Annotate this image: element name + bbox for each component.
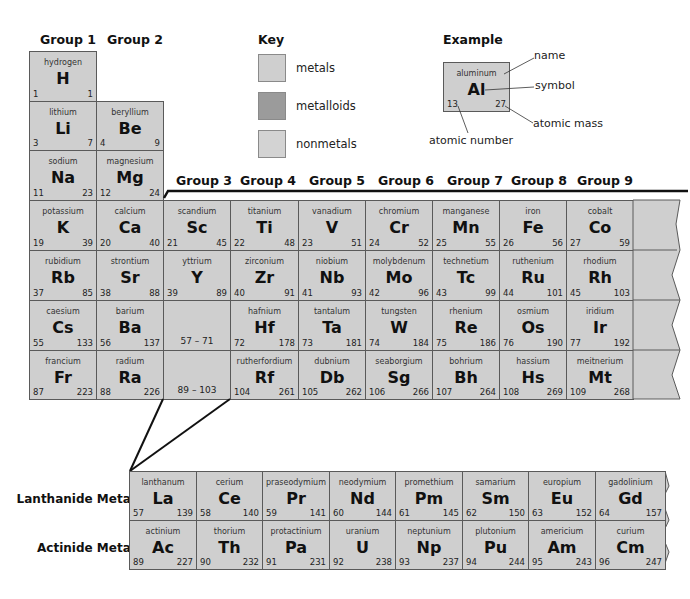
element-symbol: Pa: [263, 538, 329, 557]
atomic-mass: 139: [177, 508, 193, 518]
element-symbol: Eu: [529, 489, 595, 508]
element-symbol: Ce: [197, 489, 262, 508]
element-name: uranium: [330, 527, 395, 536]
atomic-mass: 243: [576, 557, 592, 567]
element-name: neptunium: [396, 527, 462, 536]
element-cell-nd: neodymiumNd60144: [329, 471, 396, 521]
element-cell-cm: curiumCm96247: [595, 520, 666, 570]
element-symbol: Pm: [396, 489, 462, 508]
atomic-number: 58: [200, 508, 211, 518]
element-name: neodymium: [330, 478, 395, 487]
atomic-mass: 144: [376, 508, 392, 518]
element-cell-pr: praseodymiumPr59141: [262, 471, 330, 521]
element-symbol: La: [130, 489, 196, 508]
element-name: americium: [529, 527, 595, 536]
element-symbol: Nd: [330, 489, 395, 508]
element-symbol: Pu: [463, 538, 528, 557]
atomic-number: 57: [133, 508, 144, 518]
element-cell-sm: samariumSm62150: [462, 471, 529, 521]
element-cell-pa: protactiniumPa91231: [262, 520, 330, 570]
atomic-mass: 227: [177, 557, 193, 567]
atomic-number: 96: [599, 557, 610, 567]
atomic-mass: 247: [646, 557, 662, 567]
atomic-number: 91: [266, 557, 277, 567]
element-cell-pu: plutoniumPu94244: [462, 520, 529, 570]
element-name: europium: [529, 478, 595, 487]
element-symbol: Sm: [463, 489, 528, 508]
element-symbol: Am: [529, 538, 595, 557]
atomic-mass: 140: [243, 508, 259, 518]
element-name: promethium: [396, 478, 462, 487]
atomic-number: 61: [399, 508, 410, 518]
element-name: actinium: [130, 527, 196, 536]
actinide-label: Actinide Metals: [8, 541, 142, 555]
atomic-mass: 152: [576, 508, 592, 518]
atomic-number: 62: [466, 508, 477, 518]
element-cell-pm: promethiumPm61145: [395, 471, 463, 521]
atomic-number: 63: [532, 508, 543, 518]
element-cell-gd: gadoliniumGd64157: [595, 471, 666, 521]
element-name: praseodymium: [263, 478, 329, 487]
element-cell-eu: europiumEu63152: [528, 471, 596, 521]
element-symbol: Cm: [596, 538, 665, 557]
element-symbol: Np: [396, 538, 462, 557]
element-name: thorium: [197, 527, 262, 536]
atomic-number: 64: [599, 508, 610, 518]
element-symbol: Pr: [263, 489, 329, 508]
element-cell-la: lanthanumLa57139: [129, 471, 197, 521]
element-name: protactinium: [263, 527, 329, 536]
element-name: cerium: [197, 478, 262, 487]
element-symbol: Gd: [596, 489, 665, 508]
atomic-mass: 232: [243, 557, 259, 567]
element-cell-th: thoriumTh90232: [196, 520, 263, 570]
atomic-number: 90: [200, 557, 211, 567]
atomic-number: 92: [333, 557, 344, 567]
atomic-mass: 141: [310, 508, 326, 518]
element-cell-ac: actiniumAc89227: [129, 520, 197, 570]
element-cell-np: neptuniumNp93237: [395, 520, 463, 570]
element-symbol: U: [330, 538, 395, 557]
element-cell-ce: ceriumCe58140: [196, 471, 263, 521]
element-symbol: Th: [197, 538, 262, 557]
atomic-number: 93: [399, 557, 410, 567]
atomic-mass: 145: [443, 508, 459, 518]
atomic-number: 95: [532, 557, 543, 567]
element-name: gadolinium: [596, 478, 665, 487]
atomic-number: 94: [466, 557, 477, 567]
atomic-number: 89: [133, 557, 144, 567]
lanthanide-label: Lanthanide Metals: [8, 492, 142, 506]
atomic-mass: 244: [509, 557, 525, 567]
atomic-mass: 237: [443, 557, 459, 567]
element-cell-u: uraniumU92238: [329, 520, 396, 570]
element-cell-am: americiumAm95243: [528, 520, 596, 570]
atomic-mass: 238: [376, 557, 392, 567]
atomic-number: 60: [333, 508, 344, 518]
atomic-number: 59: [266, 508, 277, 518]
element-name: curium: [596, 527, 665, 536]
element-symbol: Ac: [130, 538, 196, 557]
element-name: lanthanum: [130, 478, 196, 487]
element-name: samarium: [463, 478, 528, 487]
atomic-mass: 150: [509, 508, 525, 518]
atomic-mass: 157: [646, 508, 662, 518]
element-name: plutonium: [463, 527, 528, 536]
atomic-mass: 231: [310, 557, 326, 567]
